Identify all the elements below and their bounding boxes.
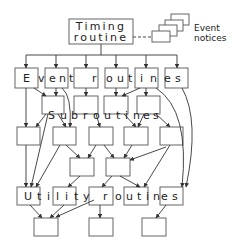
svg-text:t: t <box>137 190 142 203</box>
svg-text:U: U <box>24 190 32 203</box>
svg-text:o: o <box>93 109 100 122</box>
svg-text:s: s <box>153 109 159 122</box>
svg-text:t: t <box>69 72 74 85</box>
svg-text:v: v <box>38 72 45 85</box>
svg-text:i: i <box>140 72 143 85</box>
svg-text:e: e <box>49 72 56 85</box>
svg-text:u: u <box>117 72 124 85</box>
hierarchy-diagram: Event notices Timing routine <box>0 0 232 252</box>
svg-text:i: i <box>65 190 68 203</box>
svg-text:t: t <box>74 190 79 203</box>
svg-text:t: t <box>116 109 121 122</box>
event-notices-label-2: notices <box>194 33 227 43</box>
svg-text:y: y <box>83 190 90 203</box>
svg-text:E: E <box>23 72 30 85</box>
svg-text:r: r <box>83 109 88 122</box>
svg-text:u: u <box>60 109 67 122</box>
event-notices-label-1: Event <box>194 23 220 33</box>
svg-text:t: t <box>37 190 42 203</box>
subroutines-label: S u b r o u t i n e s <box>48 109 159 122</box>
svg-text:s: s <box>172 190 178 203</box>
svg-text:e: e <box>161 190 168 203</box>
svg-text:l: l <box>56 190 59 203</box>
subroutines-row-2 <box>17 127 183 145</box>
svg-text:s: s <box>175 72 181 85</box>
svg-text:e: e <box>143 109 150 122</box>
svg-text:o: o <box>106 72 113 85</box>
svg-text:i: i <box>125 109 128 122</box>
svg-text:n: n <box>59 72 66 85</box>
svg-text:r: r <box>92 72 97 85</box>
svg-text:i: i <box>146 190 149 203</box>
svg-text:t: t <box>128 72 133 85</box>
subroutines-row-3 <box>70 158 130 176</box>
timing-label-2: routine <box>74 31 129 44</box>
svg-text:n: n <box>153 190 160 203</box>
bottom-routines <box>34 218 166 236</box>
svg-text:n: n <box>133 109 140 122</box>
svg-text:i: i <box>47 190 50 203</box>
svg-text:r: r <box>103 190 108 203</box>
svg-text:n: n <box>150 72 157 85</box>
svg-text:S: S <box>48 109 55 122</box>
svg-text:e: e <box>164 72 171 85</box>
event-notices-stack <box>152 14 189 42</box>
svg-text:u: u <box>104 109 111 122</box>
svg-text:b: b <box>71 109 78 122</box>
svg-text:u: u <box>126 190 133 203</box>
event-arrows <box>26 55 177 68</box>
svg-text:o: o <box>115 190 122 203</box>
